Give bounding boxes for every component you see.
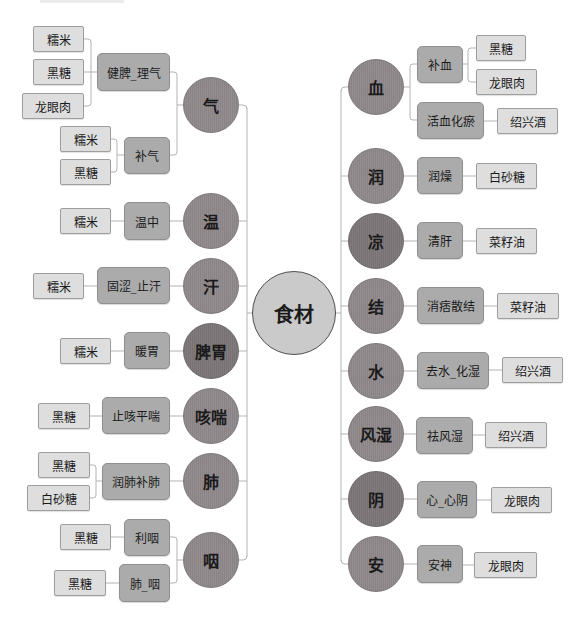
- subtopic-node: 心_心阴: [417, 481, 477, 518]
- subtopic-node: 清肝: [417, 222, 463, 259]
- leaf-node: 龙眼肉: [476, 69, 537, 95]
- subtopic-node: 润燥: [417, 157, 463, 194]
- topic-node: 气: [183, 77, 239, 133]
- subtopic-node: 去水_化湿: [417, 352, 489, 389]
- topic-node: 血: [348, 59, 404, 115]
- subtopic-node: 祛风湿: [416, 417, 473, 454]
- subtopic-node: 补气: [124, 137, 170, 174]
- topic-node: 阴: [348, 471, 404, 527]
- leaf-node: 绍兴酒: [502, 357, 563, 383]
- topic-node: 温: [183, 193, 239, 249]
- subtopic-node: 健脾_理气: [97, 53, 170, 91]
- subtopic-node: 暖胃: [124, 332, 170, 369]
- leaf-node: 黑糖: [60, 524, 111, 550]
- subtopic-node: 消痞散结: [417, 287, 484, 324]
- leaf-node: 黑糖: [38, 403, 90, 429]
- subtopic-node: 润肺补肺: [102, 463, 170, 500]
- leaf-node: 龙眼肉: [474, 552, 537, 578]
- leaf-node: 黑糖: [38, 452, 90, 478]
- subtopic-node: 固涩_止汗: [97, 267, 170, 304]
- subtopic-node: 温中: [124, 202, 170, 240]
- topic-node: 咳喘: [183, 388, 239, 444]
- leaf-node: 糯米: [33, 273, 84, 299]
- leaf-node: 绍兴酒: [485, 422, 547, 448]
- leaf-node: 糯米: [60, 126, 111, 152]
- topic-node: 汗: [183, 258, 239, 314]
- subtopic-node: 利咽: [124, 519, 170, 556]
- topic-node: 水: [348, 343, 404, 399]
- topic-node: 结: [348, 278, 404, 334]
- subtopic-node: 补血: [417, 46, 463, 83]
- topic-node: 咽: [183, 532, 239, 588]
- topic-node: 脾胃: [183, 323, 239, 379]
- subtopic-node: 止咳平喘: [102, 397, 170, 434]
- topic-node: 风湿: [348, 406, 404, 462]
- leaf-node: 绍兴酒: [497, 108, 558, 134]
- leaf-node: 菜籽油: [497, 293, 559, 319]
- leaf-node: 黑糖: [33, 59, 84, 85]
- leaf-node: 糯米: [60, 208, 111, 234]
- topic-node: 凉: [348, 213, 404, 269]
- central-topic: 食材: [252, 271, 336, 355]
- leaf-node: 糯米: [60, 338, 111, 364]
- leaf-node: 龙眼肉: [22, 93, 84, 119]
- leaf-node: 菜籽油: [476, 228, 537, 254]
- leaf-node: 糯米: [33, 26, 84, 52]
- subtopic-node: 安神: [417, 545, 463, 583]
- subtopic-node: 活血化瘀: [417, 102, 484, 139]
- subtopic-node: 肺_咽: [119, 564, 170, 602]
- topic-node: 润: [348, 148, 404, 204]
- topic-node: 安: [348, 536, 404, 592]
- topic-node: 肺: [183, 453, 239, 509]
- leaf-node: 白砂糖: [27, 485, 90, 511]
- leaf-node: 黑糖: [476, 35, 526, 61]
- mind-map-canvas: 食材 气 健脾_理气 糯米 黑糖 龙眼肉 补气 糯米 黑糖 温 温中 糯米 汗 …: [0, 0, 584, 623]
- leaf-node: 黑糖: [60, 159, 111, 185]
- leaf-node: 白砂糖: [476, 163, 537, 189]
- leaf-node: 黑糖: [54, 570, 106, 596]
- leaf-node: 龙眼肉: [491, 487, 552, 513]
